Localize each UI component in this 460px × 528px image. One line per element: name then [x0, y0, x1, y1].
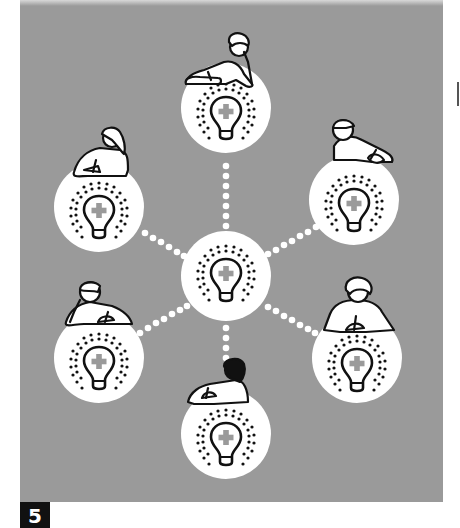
person-bottom — [188, 359, 248, 404]
person-lower-left — [66, 282, 132, 325]
figure-number-label: 5 — [20, 502, 50, 528]
person-upper-left — [74, 128, 128, 177]
person-upper-right — [333, 120, 393, 163]
network-diagram — [0, 0, 460, 528]
person-top — [186, 33, 253, 87]
person-lower-right — [324, 278, 394, 333]
